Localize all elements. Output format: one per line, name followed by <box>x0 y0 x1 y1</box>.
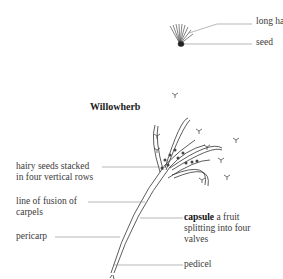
label-pericarp: pericarp <box>16 231 47 242</box>
label-capsule-line3: valves <box>184 234 208 245</box>
label-fusion-line1: line of fusion of <box>16 196 77 207</box>
label-hairy-seeds-line2: in four vertical rows <box>16 172 93 183</box>
label-fusion-line2: carpels <box>16 207 43 218</box>
label-long-hairs: long hairs <box>256 16 283 27</box>
label-pedicel: pedicel <box>184 259 211 270</box>
label-capsule-desc: a fruit <box>214 212 239 222</box>
capsule-drawing <box>110 118 222 279</box>
label-hairy-seeds-line1: hairy seeds stacked <box>16 161 89 172</box>
label-capsule-line1: capsule a fruit <box>184 212 239 223</box>
label-capsule-term: capsule <box>184 212 214 222</box>
seed-detail-drawing <box>170 24 193 47</box>
diagram-title: Willowherb <box>90 101 140 112</box>
label-capsule-line2: splitting into four <box>184 223 251 234</box>
label-seed: seed <box>256 37 273 48</box>
